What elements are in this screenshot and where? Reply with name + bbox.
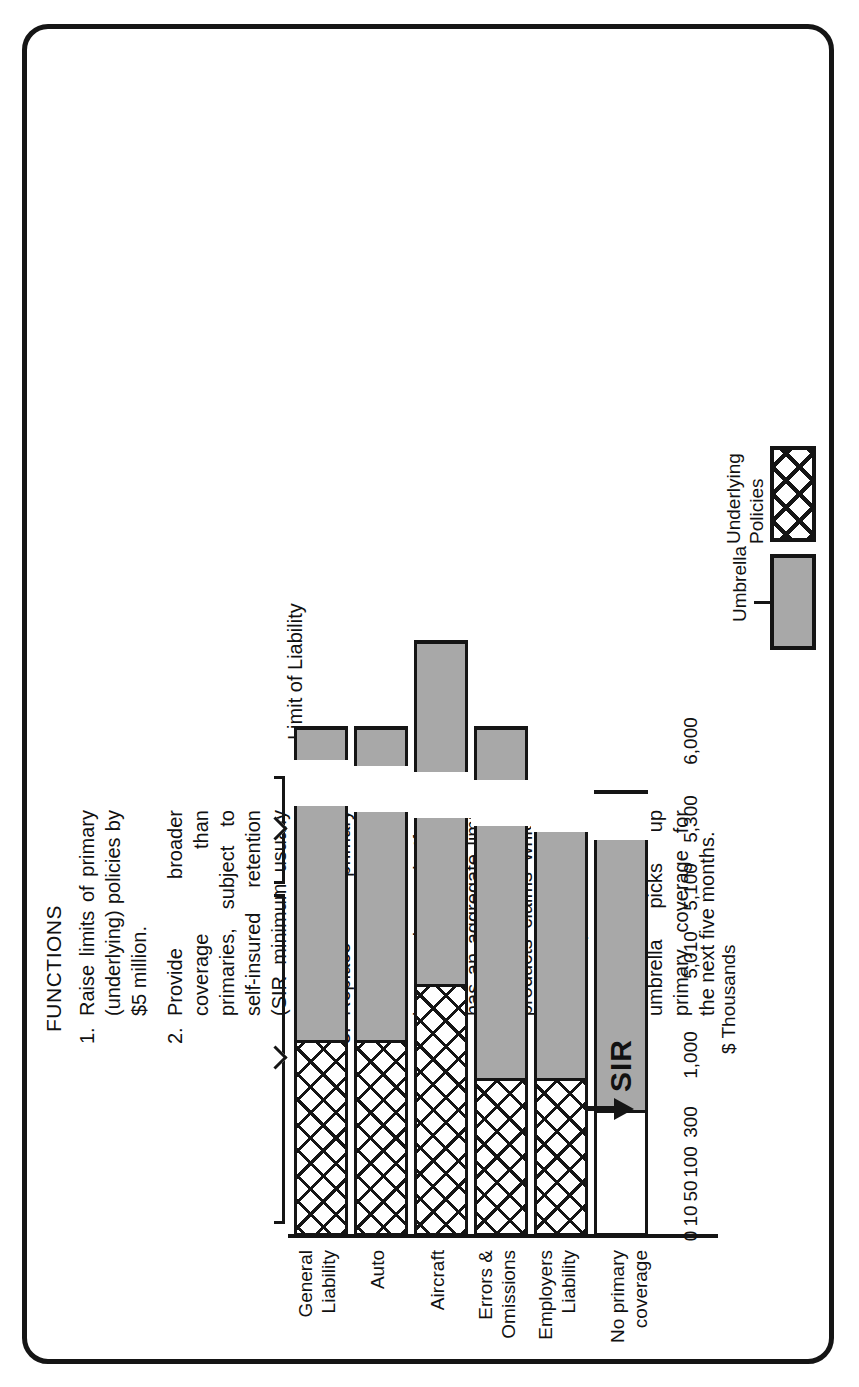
category-line-2: Omissions xyxy=(497,1250,520,1387)
bar-segment-underlying xyxy=(354,1040,408,1236)
bar-segment-underlying xyxy=(294,1040,348,1236)
sir-label: SIR xyxy=(604,1039,638,1092)
legend-label-underlying-1: Underlying xyxy=(722,453,745,544)
bar-row-general-liability[interactable] xyxy=(294,726,348,1236)
axis-break-gap xyxy=(411,772,471,818)
bar-row-aircraft[interactable] xyxy=(414,640,468,1236)
bar-segment-underlying xyxy=(534,1078,588,1236)
legend: Umbrella Underlying Policies xyxy=(718,230,838,650)
category-line-2: Liability xyxy=(317,1250,340,1387)
legend-label-underlying-2: Policies xyxy=(745,479,768,544)
category-line-1: General xyxy=(294,1250,317,1387)
axis-tick-5100: 5,100 xyxy=(680,856,702,918)
legend-leader-umbrella xyxy=(754,601,770,604)
category-label-employers-liability: Employers Liability xyxy=(534,1250,580,1387)
bar-segment-sir-retention xyxy=(594,1110,648,1236)
axis-tick-1000: 1,000 xyxy=(680,1024,702,1086)
legend-swatch-umbrella xyxy=(770,554,816,650)
category-line-1: No primary xyxy=(606,1250,629,1387)
brace-tick-left xyxy=(274,1221,284,1224)
axis-break-gap xyxy=(291,760,351,806)
bar-end-cap xyxy=(474,726,528,730)
bar-row-employers-liability[interactable] xyxy=(534,790,588,1236)
functions-section: FUNCTIONS 1. Raise limits of primary (un… xyxy=(38,50,288,1350)
figure-canvas: FUNCTIONS 1. Raise limits of primary (un… xyxy=(38,50,828,1350)
bar-row-auto[interactable] xyxy=(354,726,408,1236)
category-label-auto: Auto xyxy=(366,1250,389,1387)
axis-break-gap xyxy=(591,794,651,840)
axis-tick-100: 100 xyxy=(680,1142,702,1182)
bar-row-no-primary-coverage[interactable] xyxy=(594,790,648,1236)
axis-unit-label: $ Thousands xyxy=(718,944,740,1054)
category-line-1: Errors & xyxy=(474,1250,497,1387)
bar-segment-underlying xyxy=(414,984,468,1236)
axis-break-gap xyxy=(531,786,591,832)
value-axis-title: Limit of Liability xyxy=(284,603,307,740)
bar-end-cap xyxy=(294,726,348,730)
category-label-general-liability: General Liability xyxy=(294,1250,340,1387)
chart: Limit of Liability xyxy=(288,50,828,1350)
functions-heading: FUNCTIONS xyxy=(42,905,66,1032)
axis-tick-300: 300 xyxy=(680,1101,702,1143)
axis-break-gap xyxy=(471,780,531,826)
bar-row-errors-omissions[interactable] xyxy=(474,726,528,1236)
brace-tick-left xyxy=(274,881,284,884)
axis-tick-6000: 6,000 xyxy=(680,710,702,772)
axis-tick-5300: 5,300 xyxy=(680,788,702,850)
axis-break-gap xyxy=(351,766,411,812)
function-2-number: 2. xyxy=(162,1027,188,1044)
category-label-no-primary-coverage: No primary coverage xyxy=(606,1250,652,1387)
bar-end-cap xyxy=(414,640,468,644)
brace-tick-right xyxy=(274,776,284,779)
category-label-errors-omissions: Errors & Omissions xyxy=(474,1250,520,1387)
category-line-1: Employers xyxy=(534,1250,557,1387)
category-line-1: Aircraft xyxy=(426,1250,449,1387)
category-line-2: coverage xyxy=(629,1250,652,1387)
category-line-1: Auto xyxy=(366,1250,389,1387)
bar-segment-underlying xyxy=(474,1078,528,1236)
function-1-number: 1. xyxy=(74,1027,100,1044)
legend-swatch-underlying xyxy=(770,446,816,542)
category-line-2: Liability xyxy=(557,1250,580,1387)
axis-tick-5010: 5,010 xyxy=(680,924,702,986)
category-label-aircraft: Aircraft xyxy=(426,1250,449,1387)
legend-label-umbrella: Umbrella xyxy=(728,546,751,622)
function-1-text: Raise limits of primary (underlying) pol… xyxy=(74,810,152,1016)
bar-end-cap xyxy=(354,726,408,730)
brace-tick-right xyxy=(274,894,284,897)
sir-arrow-icon xyxy=(614,1098,634,1120)
